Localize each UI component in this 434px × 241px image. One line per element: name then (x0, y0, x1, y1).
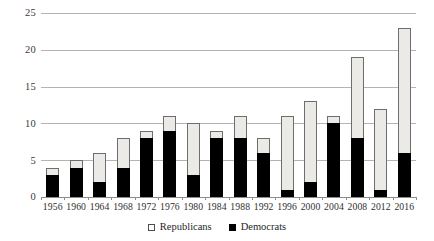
bar-segment-democrats-2004[interactable] (327, 123, 340, 197)
bar-segment-republicans-1972[interactable] (140, 131, 153, 138)
x-tick-mark-1972 (135, 197, 136, 200)
bar-segment-republicans-2004[interactable] (327, 116, 340, 123)
legend-label-democrats: Democrats (241, 221, 286, 233)
bar-segment-republicans-1976[interactable] (163, 116, 176, 131)
x-tick-mark-1988 (229, 197, 230, 200)
bar-segment-democrats-1996[interactable] (281, 190, 294, 197)
x-tick-mark-1996 (275, 197, 276, 200)
bar-segment-republicans-1960[interactable] (70, 160, 83, 167)
y-tick-15: 15 (6, 82, 36, 92)
x-tick-mark-1984 (205, 197, 206, 200)
x-tick-mark-2008 (346, 197, 347, 200)
x-tick-mark-1992 (252, 197, 253, 200)
bar-segment-democrats-1976[interactable] (163, 131, 176, 197)
bar-segment-republicans-2000[interactable] (304, 101, 317, 182)
stacked-bar-chart: 25 20 15 10 5 0 195619601964196819721976… (0, 0, 434, 241)
x-tick-mark-2004 (322, 197, 323, 200)
y-tick-0: 0 (6, 192, 36, 202)
y-tick-25: 25 (6, 8, 36, 18)
bar-segment-democrats-2012[interactable] (374, 190, 387, 197)
y-tick-10: 10 (6, 119, 36, 129)
bar-segment-democrats-1984[interactable] (210, 138, 223, 197)
bar-segment-democrats-1968[interactable] (117, 168, 130, 197)
bar-segment-republicans-1968[interactable] (117, 138, 130, 167)
chart-legend: Republicans Democrats (0, 221, 434, 233)
bar-segment-democrats-1960[interactable] (70, 168, 83, 197)
legend-label-republicans: Republicans (160, 221, 212, 233)
x-tick-mark-1976 (158, 197, 159, 200)
bar-segment-republicans-2016[interactable] (398, 28, 411, 153)
bar-segment-republicans-1992[interactable] (257, 138, 270, 153)
x-tick-mark-2012 (369, 197, 370, 200)
bar-segment-democrats-1964[interactable] (93, 182, 106, 197)
y-tick-5: 5 (6, 156, 36, 166)
bar-segment-republicans-1988[interactable] (234, 116, 247, 138)
bar-segment-republicans-1996[interactable] (281, 116, 294, 190)
bar-segment-republicans-1964[interactable] (93, 153, 106, 182)
x-tick-mark-1968 (111, 197, 112, 200)
bar-segment-republicans-1956[interactable] (46, 168, 59, 175)
x-tick-mark-2000 (299, 197, 300, 200)
legend-item-democrats: Democrats (229, 221, 286, 233)
bars-layer (41, 13, 416, 197)
x-tick-label-2016: 2016 (387, 201, 421, 213)
x-tick-mark-1980 (182, 197, 183, 200)
y-axis-labels: 25 20 15 10 5 0 (0, 0, 36, 241)
bar-segment-democrats-1972[interactable] (140, 138, 153, 197)
x-tick-mark-end (416, 197, 417, 200)
bar-segment-republicans-1980[interactable] (187, 123, 200, 175)
bar-segment-republicans-2012[interactable] (374, 109, 387, 190)
y-tick-20: 20 (6, 45, 36, 55)
legend-swatch-democrats-icon (229, 224, 236, 231)
bar-segment-democrats-1980[interactable] (187, 175, 200, 197)
bar-segment-democrats-2000[interactable] (304, 182, 317, 197)
x-tick-mark-1964 (88, 197, 89, 200)
x-tick-mark-2016 (393, 197, 394, 200)
bar-segment-democrats-2008[interactable] (351, 138, 364, 197)
x-tick-mark-1960 (64, 197, 65, 200)
bar-segment-republicans-1984[interactable] (210, 131, 223, 138)
bar-segment-democrats-1956[interactable] (46, 175, 59, 197)
bar-segment-democrats-1992[interactable] (257, 153, 270, 197)
legend-swatch-republicans-icon (148, 224, 155, 231)
bar-segment-democrats-2016[interactable] (398, 153, 411, 197)
x-tick-mark-1956 (41, 197, 42, 200)
legend-item-republicans: Republicans (148, 221, 212, 233)
bar-segment-republicans-2008[interactable] (351, 57, 364, 138)
bar-segment-democrats-1988[interactable] (234, 138, 247, 197)
